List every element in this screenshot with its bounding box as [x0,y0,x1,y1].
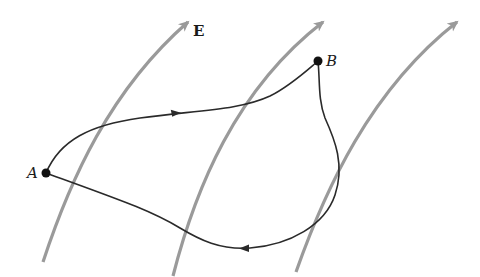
field-line-1 [43,22,188,262]
field-label: E [193,24,204,39]
field-line-2 [173,22,323,276]
point-a [42,169,51,178]
point-a-label: A [27,166,38,181]
lower-path-arrow-icon [239,245,249,253]
diagram-canvas [0,0,480,277]
upper-path-arrow-icon [171,109,181,117]
lower-path [46,61,339,248]
point-b [314,57,323,66]
point-b-label: B [326,54,337,69]
field-lines [43,22,457,276]
